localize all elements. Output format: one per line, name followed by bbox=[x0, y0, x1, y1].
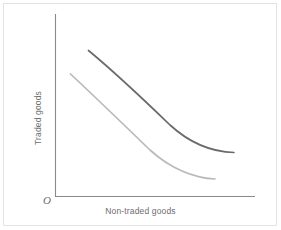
upper-indifference-curve bbox=[89, 51, 235, 153]
y-axis-label-container: Traded goods bbox=[0, 40, 76, 195]
origin-label: O bbox=[43, 194, 51, 206]
lower-indifference-curve bbox=[71, 74, 216, 179]
indifference-curve-figure: Traded goods Non-traded goods O bbox=[0, 0, 281, 230]
x-axis-label: Non-traded goods bbox=[0, 206, 281, 216]
y-axis-label: Traded goods bbox=[33, 91, 43, 145]
